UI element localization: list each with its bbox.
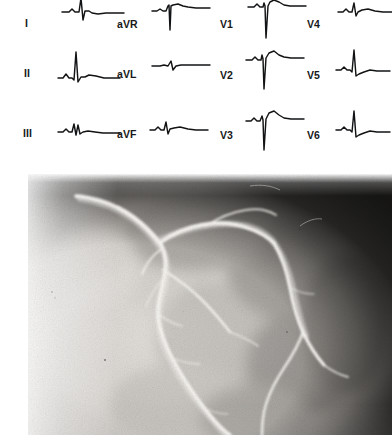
ecg-trace-aVL [152, 48, 210, 82]
ecg-trace-V2 [246, 44, 304, 94]
lead-label-aVF: aVF [117, 129, 137, 140]
lead-label-V2: V2 [220, 70, 233, 81]
lead-label-aVL: aVL [117, 69, 137, 80]
ecg-trace-II [58, 44, 120, 86]
ecg-trace-aVF [150, 108, 208, 144]
lead-label-I: I [25, 18, 28, 29]
angiogram-image [0, 174, 392, 435]
ecg-trace-I [62, 0, 124, 26]
lead-label-V6: V6 [307, 130, 320, 141]
lead-label-V4: V4 [307, 19, 320, 30]
ecg-trace-V6 [336, 104, 390, 148]
ecg-trace-V3 [246, 104, 304, 156]
lead-label-aVR: aVR [117, 19, 138, 30]
lead-label-V1: V1 [220, 19, 233, 30]
angiogram-panel [0, 174, 392, 435]
lead-label-III: III [23, 128, 32, 139]
ecg-trace-V1 [248, 0, 306, 44]
lead-label-V3: V3 [220, 130, 233, 141]
lead-label-II: II [24, 68, 30, 79]
lead-label-V5: V5 [307, 70, 320, 81]
ecg-trace-V5 [336, 44, 390, 88]
ecg-trace-III [58, 104, 120, 144]
ecg-trace-V4 [338, 0, 392, 30]
ecg-panel: I II III aVR aVL [0, 0, 392, 172]
ecg-trace-aVR [152, 0, 210, 38]
